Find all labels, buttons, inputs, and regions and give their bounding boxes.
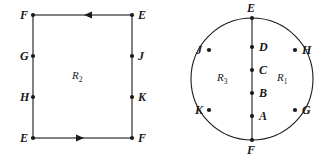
circle-circumference-label-upper-right: H [302,44,311,56]
rectangle-region-letter: R [72,69,79,81]
circle-right-region-subscript: 1 [284,77,288,86]
circle-diameter-label-1: D [259,41,268,53]
circle-region-label-left: R3 [217,72,227,86]
edge-dot-left-upper [31,54,35,58]
rectangle-region-label: R2 [72,70,82,84]
circumference-dot-lower-left [207,108,211,112]
vertex-dot-bottom-right [130,136,134,140]
circle-diameter-label-3: B [259,87,267,99]
rectangle-vertex-label-bottom-right: F [138,132,146,144]
pole-dot-bottom [250,138,254,142]
diameter-dot-2 [250,68,254,72]
diameter-dot-4 [250,114,254,118]
circle-diameter-label-4: A [259,110,267,122]
circle-right-region-letter: R [277,71,284,83]
edge-dot-right-upper [130,54,134,58]
rectangle-edge-label-left-upper: G [20,50,29,62]
circumference-dot-lower-right [293,108,297,112]
rectangle-figure-group [31,12,134,142]
rectangle-vertex-label-bottom-left: E [20,132,28,144]
circle-region-label-right: R1 [277,72,287,86]
circle-figure-group [191,16,313,142]
circle-pole-label-top: E [247,2,255,14]
rectangle-region-subscript: 2 [79,75,83,84]
circumference-dot-upper-left [207,48,211,52]
top-edge-arrow-icon [84,12,92,19]
diameter-dot-1 [250,45,254,49]
vertex-dot-top-right [130,13,134,17]
rectangle-vertex-label-top-left: F [20,9,28,21]
vertex-dot-bottom-left [31,136,35,140]
pole-dot-top [250,16,254,20]
edge-dot-right-lower [130,95,134,99]
rectangle-edge-label-left-lower: H [20,91,29,103]
vertex-dot-top-left [31,13,35,17]
circumference-dot-upper-right [293,48,297,52]
circle-left-region-subscript: 3 [224,77,228,86]
edge-dot-left-lower [31,95,35,99]
circle-left-region-letter: R [217,71,224,83]
circle-circumference-label-upper-left: J [196,44,202,56]
circle-pole-label-bottom: F [247,144,255,156]
rectangle-vertex-label-top-right: E [138,9,146,21]
diameter-dot-3 [250,91,254,95]
rectangle-edge-label-right-upper: J [138,50,144,62]
diagram-canvas: F E E F G H J K R2 E F D C B A J H K G R… [0,0,335,160]
rectangle-edge-label-right-lower: K [138,91,146,103]
circle-circumference-label-lower-left: K [195,104,203,116]
circle-circumference-label-lower-right: G [302,104,311,116]
bottom-edge-arrow-icon [76,135,84,142]
circle-diameter-label-2: C [259,64,267,76]
rectangle-outline [33,15,132,138]
